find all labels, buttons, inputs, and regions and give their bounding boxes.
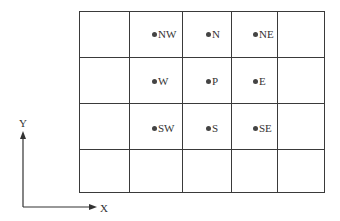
x-axis-arrowhead-icon — [89, 204, 97, 210]
axes — [0, 0, 340, 221]
x-axis-label: X — [100, 202, 108, 214]
y-axis-label: Y — [19, 117, 27, 129]
y-axis-arrowhead-icon — [20, 131, 26, 139]
